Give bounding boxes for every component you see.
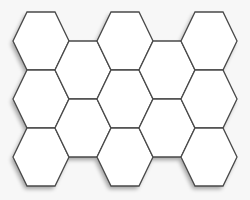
- hexagon-tiles: [13, 12, 237, 186]
- hexagon-grid-diagram: [0, 0, 250, 200]
